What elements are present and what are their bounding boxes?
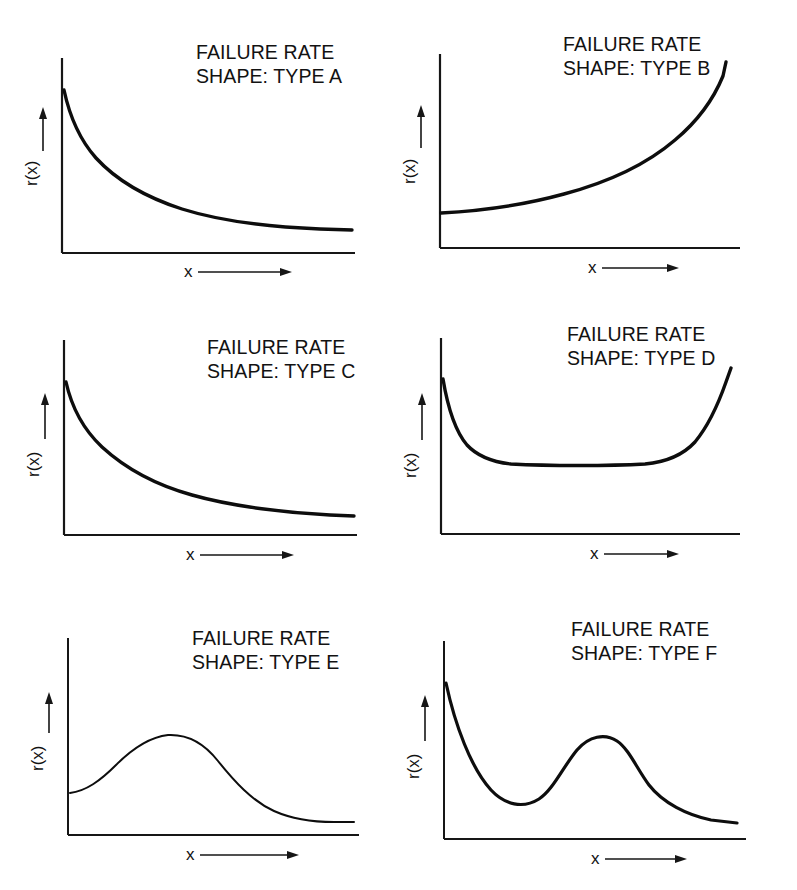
x-axis-label: x	[588, 258, 597, 277]
x-axis-arrow-icon	[605, 855, 687, 863]
x-axis-label: x	[590, 544, 599, 563]
curve-type-d	[443, 368, 731, 466]
y-axis-arrow-icon	[417, 105, 425, 148]
y-axis-label: r(x)	[404, 754, 423, 779]
y-axis-label: r(x)	[401, 453, 420, 478]
panel-plot-type-f: r(x) x	[399, 593, 797, 890]
curve-type-f	[446, 683, 737, 823]
panel-type-b: FAILURE RATE SHAPE: TYPE B r(x) x	[399, 0, 797, 297]
y-axis-label: r(x)	[400, 159, 419, 184]
x-axis-arrow-icon	[200, 851, 299, 859]
y-axis-arrow-icon	[418, 393, 426, 440]
x-axis-label: x	[186, 545, 195, 564]
y-axis-arrow-icon	[41, 393, 49, 439]
y-axis-arrow-icon	[45, 692, 53, 733]
x-axis-arrow-icon	[604, 550, 679, 558]
curve-type-c	[66, 382, 354, 516]
panel-type-e: FAILURE RATE SHAPE: TYPE E r(x) x	[0, 593, 398, 890]
panel-type-f: FAILURE RATE SHAPE: TYPE F r(x) x	[399, 593, 797, 890]
curve-type-a	[64, 90, 352, 230]
panel-plot-type-e: r(x) x	[0, 593, 398, 890]
panel-type-d: FAILURE RATE SHAPE: TYPE D r(x) x	[399, 297, 797, 594]
panel-plot-type-c: r(x) x	[0, 297, 398, 594]
y-axis-arrow-icon	[39, 107, 47, 151]
x-axis-arrow-icon	[602, 264, 679, 272]
panel-plot-type-a: r(x) x	[0, 0, 398, 297]
x-axis-label: x	[591, 849, 600, 868]
x-axis-label: x	[184, 262, 193, 281]
panel-plot-type-d: r(x) x	[399, 297, 797, 594]
panel-type-a: FAILURE RATE SHAPE: TYPE A r(x) x	[0, 0, 398, 297]
x-axis-arrow-icon	[200, 551, 294, 559]
panel-plot-type-b: r(x) x	[399, 0, 797, 297]
curve-type-b	[441, 62, 726, 213]
y-axis-label: r(x)	[28, 746, 47, 771]
x-axis-label: x	[186, 845, 195, 864]
x-axis-arrow-icon	[198, 268, 292, 276]
panel-type-c: FAILURE RATE SHAPE: TYPE C r(x) x	[0, 297, 398, 594]
y-axis-arrow-icon	[421, 695, 429, 741]
curve-type-e	[70, 735, 354, 822]
y-axis-label: r(x)	[24, 452, 43, 477]
failure-rate-figure: FAILURE RATE SHAPE: TYPE A r(x) x FAILUR…	[0, 0, 797, 890]
y-axis-label: r(x)	[22, 161, 41, 186]
